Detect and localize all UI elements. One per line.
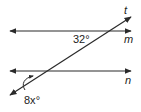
angle-label-32: 32° [73,33,90,45]
angle-label-8x: 8x° [24,94,40,106]
parallel-lines-diagram: t m n 32° 8x° [0,0,141,112]
label-n: n [125,74,131,86]
label-t: t [124,4,128,16]
line-t [10,17,131,95]
label-m: m [124,33,133,45]
